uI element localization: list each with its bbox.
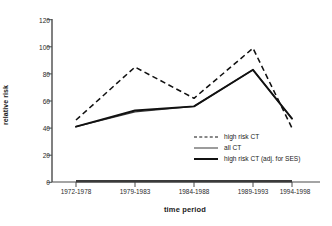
chart-figure: 120 100 80 60 40 20 0 1972-1978 1979-198… (0, 0, 332, 226)
x-tick-1972-1978: 1972-1978 (46, 188, 106, 195)
chart-legend: high risk CT all CT high risk CT (adj. f… (193, 131, 323, 164)
legend-label-high-risk-ct-adj-ses: high risk CT (adj. for SES) (219, 155, 300, 162)
series-high-risk-ct (76, 48, 292, 128)
legend-swatch-dashed-icon (193, 132, 219, 142)
x-tick-labels: 1972-1978 1979-1983 1984-1988 1989-1993 … (0, 188, 332, 202)
y-tick-100: 100 (24, 43, 50, 50)
legend-item-high-risk-ct: high risk CT (193, 131, 323, 142)
legend-swatch-thick-line-icon (193, 154, 219, 164)
legend-item-high-risk-ct-adj-ses: high risk CT (adj. for SES) (193, 153, 323, 164)
legend-label-high-risk-ct: high risk CT (219, 133, 259, 140)
y-tick-20: 20 (24, 152, 50, 159)
legend-swatch-thin-line-icon (193, 143, 219, 153)
y-tick-60: 60 (24, 98, 50, 105)
y-tick-40: 40 (24, 125, 50, 132)
x-tick-1979-1983: 1979-1983 (105, 188, 165, 195)
x-axis-title: time period (50, 205, 320, 214)
y-tick-120: 120 (24, 16, 50, 23)
y-tick-80: 80 (24, 70, 50, 77)
x-tick-1984-1988: 1984-1988 (164, 188, 224, 195)
series-high-risk-ct-adj-ses (76, 70, 292, 127)
legend-label-all-ct: all CT (219, 144, 241, 151)
x-tick-1994-1998: 1994-1998 (265, 188, 325, 195)
y-tick-0: 0 (24, 179, 50, 186)
legend-item-all-ct: all CT (193, 142, 323, 153)
x-tick-marks (76, 182, 292, 187)
y-axis-title: relative risk (2, 60, 9, 150)
